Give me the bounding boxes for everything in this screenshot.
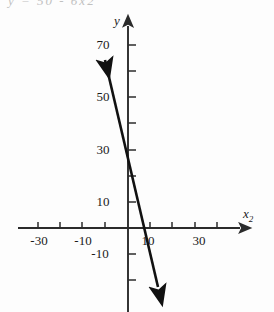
y-tick-label-50: 50 — [90, 90, 116, 103]
x-axis — [18, 222, 240, 228]
y-tick-label-70: 70 — [90, 38, 116, 51]
y-tick-label-10: 10 — [90, 195, 116, 208]
x-tick-label-30: 30 — [186, 234, 212, 247]
y-tick-label-minus-10: -10 — [84, 247, 116, 260]
x-tick-label-minus-30: -30 — [22, 234, 56, 247]
plot-canvas — [0, 0, 274, 312]
line-graph-figure: y = 50 - 6x2 — [0, 0, 274, 312]
x-tick-label-10: 10 — [135, 234, 161, 247]
x-tick-label-minus-10: -10 — [66, 234, 100, 247]
y-axis-label: y — [114, 14, 120, 27]
y-tick-label-30: 30 — [90, 143, 116, 156]
x-axis-label: x2 — [243, 207, 253, 224]
